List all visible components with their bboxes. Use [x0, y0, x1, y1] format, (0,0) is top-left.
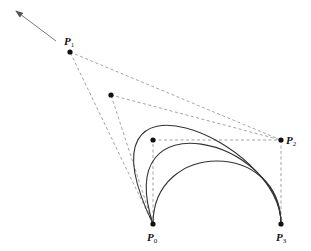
control-points [67, 49, 283, 226]
point-p1 [67, 49, 72, 54]
point-p1-variant-2 [108, 92, 113, 97]
point-p0 [150, 221, 155, 226]
bezier-curve-inner [153, 161, 281, 224]
label-p1: P1 [64, 35, 75, 49]
point-p3 [278, 221, 283, 226]
point-p2 [278, 137, 283, 142]
dashed-p1a-p2 [70, 52, 281, 140]
dashed-p1b-p2 [111, 95, 281, 140]
direction-arrow [16, 11, 56, 41]
label-p0: P0 [147, 231, 158, 245]
bezier-diagram: P1 P2 P0 P3 [0, 0, 311, 251]
point-p1-variant-3 [150, 137, 155, 142]
control-polygons [70, 52, 281, 224]
label-p2: P2 [286, 134, 297, 148]
dashed-p0-p1a [70, 52, 153, 224]
dashed-p0-p1b [111, 95, 153, 224]
label-p3: P3 [276, 231, 287, 245]
